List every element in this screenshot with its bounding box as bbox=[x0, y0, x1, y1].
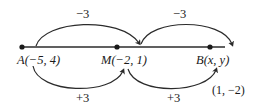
coordinate-annotation: (1, −2) bbox=[212, 84, 245, 96]
midpoint-diagram: A(−5, 4) M(−2, 1) B(x, y) −3 −3 +3 +3 (1… bbox=[0, 0, 262, 112]
point-label-a: A(−5, 4) bbox=[17, 54, 60, 67]
point-dot-a bbox=[19, 44, 24, 49]
step-label-above-right: −3 bbox=[173, 8, 186, 21]
arc-above-m-to-b bbox=[141, 25, 232, 45]
point-label-m: M(−2, 1) bbox=[101, 54, 147, 67]
arc-below-m-to-b bbox=[128, 69, 216, 89]
step-label-below-left: +3 bbox=[76, 92, 89, 105]
arc-above-a-to-m bbox=[36, 25, 139, 46]
step-label-below-right: +3 bbox=[167, 92, 180, 105]
point-label-b: B(x, y) bbox=[196, 54, 229, 67]
step-label-above-left: −3 bbox=[76, 8, 89, 21]
arc-below-a-to-m bbox=[33, 66, 123, 88]
point-dot-m bbox=[114, 44, 119, 49]
point-dot-b bbox=[207, 44, 212, 49]
